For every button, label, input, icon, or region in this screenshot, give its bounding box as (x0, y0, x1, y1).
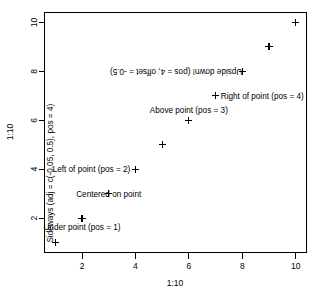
point-annotation-label: Under point (pos = 1) (43, 223, 120, 232)
point-annotation-label: Right of point (pos = 4) (221, 92, 304, 101)
x-axis-title: 1:10 (167, 278, 184, 288)
point-annotation-label: Upside down! (pos = 4, offset = -0.5) (110, 67, 243, 76)
point-annotation-label: Left of point (pos = 2) (53, 165, 131, 174)
y-axis-tick-label: 8 (29, 69, 39, 74)
x-axis-tick-label: 8 (240, 261, 245, 271)
plot-canvas: 246810 246810 1:10 1:10 Sideways (adj = … (0, 0, 322, 300)
y-axis-title: 1:10 (5, 123, 15, 140)
x-axis-tick-label: 6 (186, 261, 191, 271)
y-axis-tick-label: 4 (29, 167, 39, 172)
y-axis-tick-label: 10 (29, 17, 39, 27)
x-axis-tick-label: 2 (80, 261, 85, 271)
point-annotation-label: Centered on point (76, 190, 142, 199)
scatter-plot-figure: 246810 246810 1:10 1:10 Sideways (adj = … (0, 0, 322, 300)
y-axis-tick-label: 6 (29, 118, 39, 123)
y-axis-tick-label: 2 (29, 215, 39, 220)
x-axis-tick-label: 10 (291, 261, 301, 271)
x-axis-tick-label: 4 (133, 261, 138, 271)
point-annotation-label: Above point (pos = 3) (150, 106, 228, 115)
